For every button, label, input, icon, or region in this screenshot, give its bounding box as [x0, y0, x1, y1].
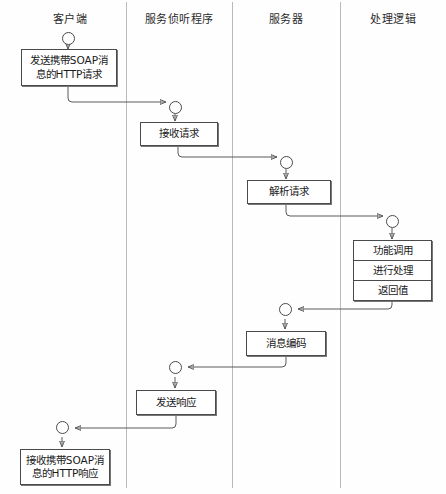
- node-receive-request[interactable]: 接收请求: [140, 122, 218, 146]
- statepoint-listener-receive: [169, 101, 182, 114]
- node-send-response[interactable]: 发送响应: [136, 390, 216, 415]
- node-parse-request-label: 解析请求: [269, 185, 309, 198]
- lane-header-logic: 处理逻辑: [344, 10, 442, 26]
- statepoint-client-receive: [56, 421, 69, 434]
- node-receive-response-line1: 接收携带SOAP消: [26, 454, 104, 467]
- wire-process-to-encode: [298, 301, 392, 309]
- lane-header-listener: 服务侦听程序: [128, 10, 230, 26]
- lane-header-client: 客户端: [20, 10, 120, 26]
- node-encode-message[interactable]: 消息编码: [246, 331, 326, 356]
- node-process-stack[interactable]: 功能调用 进行处理 返回值: [353, 240, 432, 301]
- node-send-response-label: 发送响应: [156, 396, 196, 409]
- lane-header-server: 服务器: [236, 10, 336, 26]
- wire-encode-to-sendresp: [188, 356, 286, 367]
- sequence-diagram-canvas: 客户端 服务侦听程序 服务器 处理逻辑: [0, 0, 446, 494]
- statepoint-logic-process: [386, 215, 399, 228]
- node-process-row-handle[interactable]: 进行处理: [354, 261, 431, 281]
- lane-divider-2: [232, 2, 233, 488]
- node-receive-response-line2: 息的HTTP响应: [32, 467, 99, 480]
- node-process-row-return[interactable]: 返回值: [354, 281, 431, 300]
- statepoint-listener-respond: [169, 361, 182, 374]
- node-send-request[interactable]: 发送携带SOAP消 息的HTTP请求: [21, 49, 117, 86]
- statepoint-server-parse: [280, 156, 293, 169]
- statepoint-server-encode: [279, 303, 292, 316]
- node-parse-request[interactable]: 解析请求: [247, 180, 331, 204]
- node-receive-request-label: 接收请求: [159, 127, 199, 140]
- wire-parse-to-logic: [286, 204, 383, 216]
- node-process-row-return-label: 返回值: [378, 284, 408, 297]
- node-process-row-handle-label: 进行处理: [373, 264, 413, 277]
- lane-divider-3: [340, 2, 341, 488]
- node-process-row-call[interactable]: 功能调用: [354, 241, 431, 261]
- wire-receive-to-server: [178, 146, 277, 157]
- node-receive-response[interactable]: 接收携带SOAP消 息的HTTP响应: [20, 449, 110, 485]
- node-send-request-line2: 息的HTTP请求: [36, 68, 103, 81]
- node-send-request-line1: 发送携带SOAP消: [30, 54, 108, 67]
- node-process-row-call-label: 功能调用: [373, 244, 413, 257]
- statepoint-client-start: [62, 32, 75, 45]
- node-encode-message-label: 消息编码: [266, 337, 306, 350]
- wire-send-to-listener: [68, 86, 166, 102]
- lane-divider-1: [126, 2, 127, 488]
